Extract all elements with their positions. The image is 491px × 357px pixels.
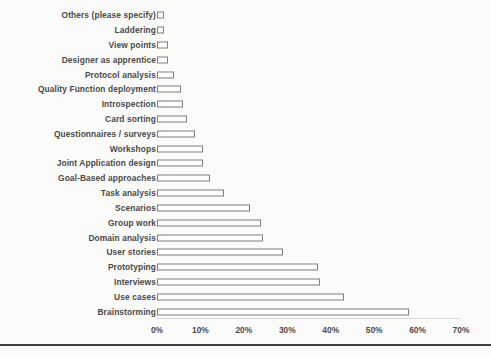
bar [157, 145, 203, 152]
category-label: View points [109, 40, 156, 50]
x-axis-ticks: 0%10%20%30%40%50%60%70% [157, 319, 461, 341]
category-label: User stories [106, 247, 156, 257]
category-label: Task analysis [101, 188, 156, 198]
category-label: Quality Function deployment [38, 84, 156, 94]
category-label: Workshops [110, 144, 156, 154]
bar [157, 204, 250, 211]
bar [157, 56, 168, 63]
bar [157, 175, 210, 182]
category-label: Prototyping [108, 262, 156, 272]
bar [157, 219, 261, 226]
category-label: Designer as apprentice [62, 55, 156, 65]
bar [157, 116, 187, 123]
category-label: Group work [108, 218, 156, 228]
bar [157, 12, 164, 19]
category-label: Questionnaires / surveys [54, 129, 156, 139]
category-label: Card sorting [105, 114, 156, 124]
category-label: Brainstorming [97, 307, 156, 317]
x-tick-label: 20% [235, 325, 252, 335]
category-label: Use cases [114, 292, 156, 302]
category-label: Protocol analysis [85, 70, 156, 80]
category-label: Scenarios [115, 203, 156, 213]
category-label: Joint Application design [57, 158, 156, 168]
bar [157, 42, 168, 49]
x-tick-label: 60% [409, 325, 426, 335]
bar [157, 234, 263, 241]
bar [157, 86, 181, 93]
x-tick-label: 0% [151, 325, 163, 335]
bar-chart: Others (please specify)LadderingView poi… [0, 0, 491, 357]
bar [157, 278, 320, 285]
x-tick-label: 70% [453, 325, 470, 335]
bar [157, 101, 183, 108]
x-tick-label: 30% [279, 325, 296, 335]
x-tick-label: 40% [322, 325, 339, 335]
bar [157, 130, 195, 137]
category-label: Introspection [102, 99, 156, 109]
x-tick-label: 10% [192, 325, 209, 335]
category-label: Goal-Based approaches [58, 173, 156, 183]
bar [157, 264, 318, 271]
category-label: Interviews [114, 277, 156, 287]
bar-rows: Others (please specify)LadderingView poi… [0, 0, 491, 319]
bar [157, 27, 164, 34]
bar [157, 293, 344, 300]
bottom-divider [0, 344, 491, 346]
bar [157, 190, 224, 197]
category-label: Laddering [115, 25, 156, 35]
bar [157, 249, 283, 256]
category-label: Others (please specify) [62, 10, 156, 20]
x-tick-label: 50% [366, 325, 383, 335]
bar [157, 71, 174, 78]
category-label: Domain analysis [88, 233, 156, 243]
bar [157, 160, 203, 167]
bar [157, 308, 409, 315]
